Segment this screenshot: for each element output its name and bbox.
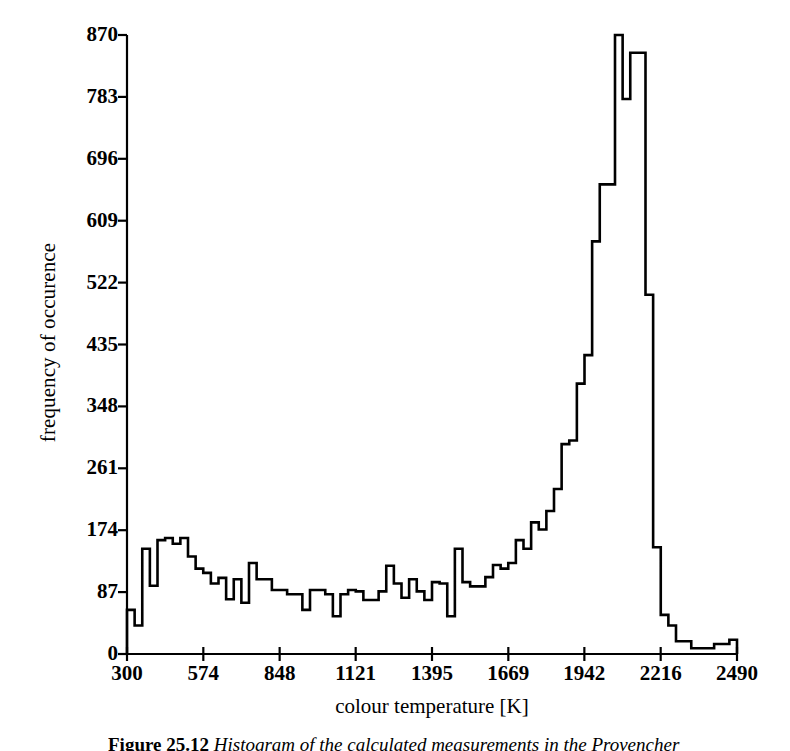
x-tick-label-2490: 2490 <box>682 663 790 684</box>
histogram-step-outline <box>127 35 737 654</box>
figure-root: frequency of occurence 08717426134843552… <box>0 0 790 751</box>
y-axis-ticks <box>118 35 127 654</box>
histogram-plot <box>0 0 790 751</box>
figure-caption-number: Figure 25.12 <box>108 734 209 751</box>
figure-caption-text: Histogram of the calculated measurements… <box>214 734 680 751</box>
figure-caption: Figure 25.12 Histogram of the calculated… <box>108 733 778 751</box>
